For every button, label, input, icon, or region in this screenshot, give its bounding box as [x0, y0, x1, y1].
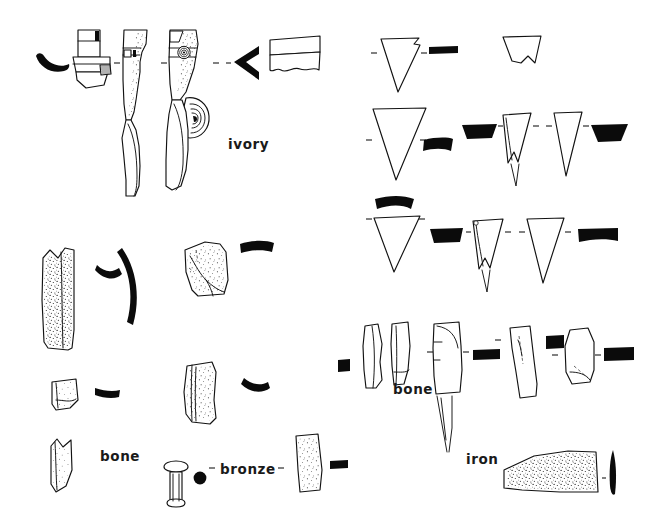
- arrowhead-4: [503, 113, 531, 186]
- plate-drawing: [0, 0, 650, 530]
- ivory-shaft-with-spiral: [166, 30, 209, 190]
- bone-left-group: [42, 241, 274, 492]
- arrowhead-1-section: [429, 46, 458, 54]
- ivory-collar-boss: [178, 46, 190, 58]
- bone-tool-1-section: [338, 359, 350, 372]
- material-label-bronze: bronze: [220, 461, 276, 477]
- material-label-iron: iron: [466, 451, 499, 467]
- arrowhead-4-section: [462, 124, 497, 139]
- arrowhead-7: [473, 219, 503, 292]
- bronze-rivet-plan: [194, 472, 207, 485]
- material-label-ivory: ivory: [228, 136, 269, 152]
- iron-group: [504, 450, 616, 495]
- iron-blade: [504, 451, 598, 492]
- arrowhead-group: [366, 36, 628, 292]
- ivory-handle-boss: [100, 65, 111, 75]
- bone-pointed-fragment: [51, 439, 72, 492]
- bone-plaque-section: [240, 241, 274, 253]
- bone-tool-4-section: [546, 335, 564, 349]
- ivory-profile-crescent: [36, 53, 69, 71]
- bone-wide-strip: [184, 362, 216, 424]
- material-label-bone-left: bone: [100, 448, 140, 464]
- artifact-plate: ivory bone bronze bone iron: [0, 0, 650, 530]
- bronze-tapered-strip-section: [330, 460, 348, 469]
- material-label-bone-right: bone: [393, 381, 433, 397]
- arrowhead-8-section: [578, 228, 618, 242]
- bone-tool-2: [391, 322, 410, 385]
- arrowhead-5-section: [591, 124, 628, 142]
- bone-tool-3-section: [473, 349, 500, 360]
- bone-long-strip: [42, 248, 74, 350]
- bone-long-strip-profile: [117, 248, 137, 325]
- bone-long-strip-section: [95, 265, 122, 279]
- ivory-faceted-handle: [73, 30, 111, 88]
- arrowhead-1: [381, 38, 420, 92]
- arrowhead-3-section: [423, 138, 453, 151]
- bone-tool-5-section: [604, 347, 634, 361]
- bone-wide-strip-section: [241, 378, 270, 392]
- arrowhead-6-section: [375, 196, 414, 209]
- ivory-profile-chevron: [234, 46, 259, 80]
- arrowhead-3: [373, 108, 426, 180]
- bone-tool-3: [433, 322, 462, 452]
- bone-plaque: [185, 242, 228, 296]
- bone-small-fragment-section: [95, 388, 120, 398]
- arrowhead-7-section: [430, 228, 463, 243]
- arrowhead-6: [374, 216, 420, 272]
- arrowhead-2: [503, 36, 541, 63]
- bone-tool-4: [510, 326, 537, 398]
- bone-tool-1: [363, 324, 382, 388]
- bone-small-fragment: [52, 379, 78, 410]
- iron-blade-section: [610, 450, 616, 495]
- ivory-group: [36, 30, 320, 196]
- arrowhead-5: [554, 112, 582, 176]
- bronze-tapered-strip: [296, 434, 322, 492]
- bone-tool-5: [565, 328, 594, 384]
- ivory-block: [270, 36, 320, 71]
- ivory-stippled-shaft: [122, 30, 147, 196]
- arrowhead-8: [527, 218, 564, 283]
- bronze-rivet: [164, 461, 188, 507]
- bone-right-group: [338, 322, 634, 452]
